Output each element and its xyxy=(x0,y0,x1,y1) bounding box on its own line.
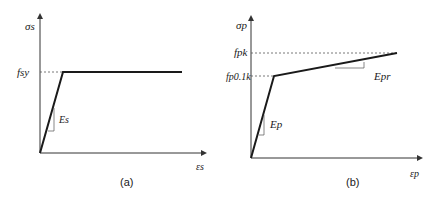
stress-strain-diagrams: σs fsy Es εs (a) σp fpk fp0.1k Ep Epr εp… xyxy=(0,0,440,197)
epr-slope-label: Epr xyxy=(373,70,391,82)
stress-strain-curve xyxy=(40,72,182,153)
panel-b: σp fpk fp0.1k Ep Epr εp (b) xyxy=(226,18,420,188)
fp01k-label: fp0.1k xyxy=(226,71,251,82)
ep-slope-label: Ep xyxy=(269,118,283,130)
panel-a: σs fsy Es εs (a) xyxy=(17,16,204,188)
caption-b: (b) xyxy=(346,176,359,188)
yield-label: fsy xyxy=(17,66,29,78)
caption-a: (a) xyxy=(120,176,133,188)
stress-strain-curve xyxy=(251,53,397,158)
x-axis-label: εp xyxy=(410,168,419,179)
y-axis-label: σs xyxy=(25,20,35,32)
x-axis-label: εs xyxy=(196,161,204,172)
fpk-label: fpk xyxy=(234,46,249,58)
slope-label: Es xyxy=(58,114,69,125)
y-axis-label: σp xyxy=(236,19,247,31)
